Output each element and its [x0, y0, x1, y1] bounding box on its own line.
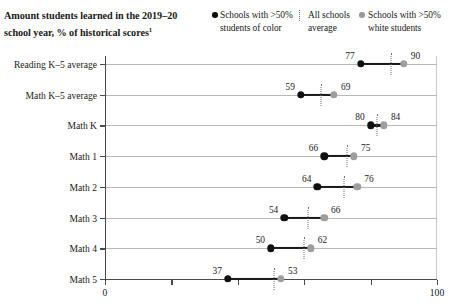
range-connector — [301, 94, 334, 96]
y-axis-label: Math 4 — [70, 243, 97, 254]
average-marker — [274, 268, 275, 290]
data-point-students-of-color[interactable] — [281, 214, 288, 221]
data-label-left: 37 — [212, 266, 221, 276]
footnote-marker: 1 — [149, 26, 152, 33]
chart-legend: Schools with >50% students of color All … — [216, 9, 475, 39]
range-connector — [317, 186, 357, 188]
x-axis-tick-label: 0 — [103, 287, 108, 298]
y-axis-label: Math K–5 average — [26, 89, 97, 100]
legend-label-line-2: white students — [368, 22, 456, 35]
legend-item-all-schools-average: All schools average — [308, 9, 358, 34]
legend-label-line-2: students of color — [220, 22, 296, 35]
y-axis-label: Math 1 — [70, 151, 97, 162]
data-point-white-students[interactable] — [400, 60, 407, 67]
average-marker — [390, 53, 391, 75]
average-marker — [347, 145, 348, 167]
dot-plot-chart: Amount students learned in the 2019–20 s… — [0, 0, 475, 307]
y-axis-label: Math K — [67, 120, 97, 131]
data-label-left: 54 — [269, 205, 278, 215]
filled-circle-gray-icon — [359, 12, 365, 18]
x-axis-tick — [437, 280, 438, 285]
data-point-white-students[interactable] — [307, 245, 314, 252]
data-point-white-students[interactable] — [330, 91, 337, 98]
data-label-left: 64 — [302, 174, 311, 184]
y-axis-label: Math 5 — [70, 274, 97, 285]
data-label-right: 62 — [318, 235, 327, 245]
gridline — [105, 95, 437, 96]
y-axis-label: Math 2 — [70, 181, 97, 192]
gridline — [105, 187, 437, 188]
data-point-students-of-color[interactable] — [267, 245, 274, 252]
legend-label-line-2: average — [308, 22, 358, 35]
x-axis-tick — [371, 280, 372, 285]
chart-title: Amount students learned in the 2019–20 s… — [4, 9, 219, 39]
data-label-right: 75 — [361, 143, 370, 153]
data-label-left: 59 — [286, 82, 295, 92]
gridline — [105, 218, 437, 219]
data-point-white-students[interactable] — [320, 214, 327, 221]
chart-header: Amount students learned in the 2019–20 s… — [0, 0, 475, 44]
legend-label-line-1: Schools with >50% — [220, 9, 296, 22]
y-axis-tick — [100, 218, 106, 219]
x-axis-tick-label: 100 — [430, 287, 444, 298]
data-label-right: 90 — [411, 51, 420, 61]
data-point-students-of-color[interactable] — [320, 152, 327, 159]
legend-item-students-of-color: Schools with >50% students of color — [220, 9, 296, 34]
data-label-right: 69 — [341, 82, 350, 92]
data-label-right: 76 — [364, 174, 373, 184]
y-axis-tick — [100, 248, 106, 249]
data-label-left: 66 — [309, 143, 318, 153]
x-axis-tick — [171, 280, 172, 285]
data-point-white-students[interactable] — [380, 122, 387, 129]
y-axis-label: Math 3 — [70, 212, 97, 223]
average-marker — [304, 237, 305, 259]
legend-label-line-1: All schools — [308, 9, 358, 22]
average-marker — [320, 84, 321, 106]
y-axis-label: Reading K–5 average — [14, 59, 97, 70]
plot-right-border — [436, 56, 437, 280]
average-marker — [307, 207, 308, 229]
data-point-students-of-color[interactable] — [357, 60, 364, 67]
range-connector — [271, 247, 311, 249]
data-label-left: 50 — [256, 235, 265, 245]
plot-area: Reading K–5 averageMath K–5 averageMath … — [0, 44, 475, 307]
y-axis-tick — [100, 125, 106, 126]
data-label-left: 80 — [355, 112, 364, 122]
data-point-white-students[interactable] — [354, 183, 361, 190]
data-point-students-of-color[interactable] — [367, 122, 374, 129]
y-axis-line — [105, 56, 106, 280]
data-label-right: 84 — [391, 112, 400, 122]
data-point-students-of-color[interactable] — [314, 183, 321, 190]
data-label-left: 77 — [345, 51, 354, 61]
y-axis-tick — [100, 187, 106, 188]
data-label-right: 53 — [288, 266, 297, 276]
chart-title-line-1: Amount students learned in the 2019–20 — [4, 10, 177, 21]
average-marker — [344, 176, 345, 198]
data-point-white-students[interactable] — [350, 152, 357, 159]
x-axis-tick — [105, 280, 106, 285]
legend-item-white-students: Schools with >50% white students — [368, 9, 456, 34]
average-marker — [377, 114, 378, 136]
range-connector — [284, 217, 324, 219]
y-axis-tick — [100, 95, 106, 96]
range-connector — [361, 63, 404, 65]
chart-title-line-2: school year, % of historical scores — [4, 27, 149, 38]
x-axis-tick — [238, 280, 239, 285]
legend-label-line-1: Schools with >50% — [368, 9, 456, 22]
data-point-students-of-color[interactable] — [297, 91, 304, 98]
filled-circle-black-icon — [212, 12, 218, 18]
data-label-right: 66 — [331, 205, 340, 215]
gridline — [105, 156, 437, 157]
y-axis-tick — [100, 64, 106, 65]
dotted-vertical-line-icon — [299, 10, 300, 21]
data-point-students-of-color[interactable] — [224, 275, 231, 282]
data-point-white-students[interactable] — [277, 275, 284, 282]
x-axis-tick — [304, 280, 305, 285]
gridline — [105, 125, 437, 126]
y-axis-tick — [100, 156, 106, 157]
